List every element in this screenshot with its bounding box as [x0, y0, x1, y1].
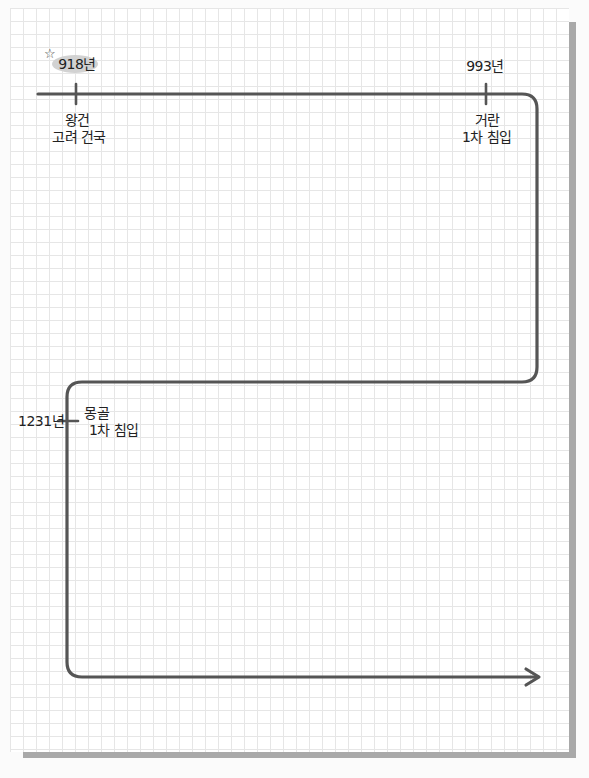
- event-desc-1231-line2: 1차 침입: [89, 422, 139, 439]
- event-desc-918-line1: 왕건: [65, 112, 90, 129]
- event-desc-993-line1: 거란: [475, 112, 500, 129]
- event-desc-918-line2: 고려 건국: [52, 129, 106, 146]
- event-year-918: 918년: [58, 56, 96, 73]
- event-year-993: 993년: [466, 58, 504, 75]
- event-desc-1231-line1: 몽골: [84, 405, 109, 422]
- event-desc-993-line2: 1차 침입: [462, 129, 512, 146]
- event-year-1231: 1231년: [18, 413, 64, 430]
- star-icon: ☆: [44, 47, 56, 60]
